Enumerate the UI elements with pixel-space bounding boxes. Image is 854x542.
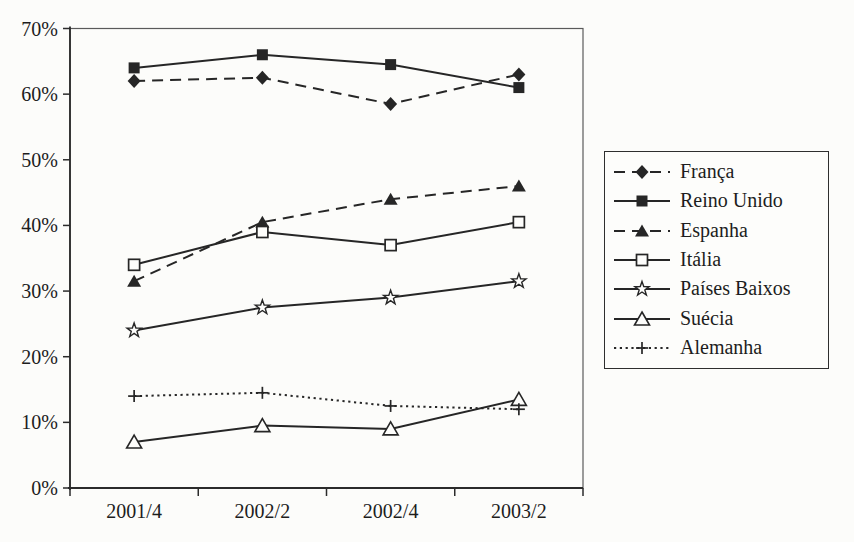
x-tick-label: 2001/4 (106, 500, 162, 522)
legend-item-espanha: Espanha (613, 218, 826, 244)
legend-item-franca: França (613, 159, 826, 185)
legend-item-italia: Itália (613, 247, 826, 273)
data-point-marker (257, 226, 268, 237)
data-point-marker (385, 240, 396, 251)
data-point-marker (513, 82, 524, 93)
series-line-alemanha (134, 393, 519, 409)
legend-label-italia: Itália (680, 249, 721, 271)
y-tick-label: 60% (21, 83, 58, 105)
data-point-marker (513, 217, 524, 228)
y-tick-label: 50% (21, 149, 58, 171)
series-line-paises-baixos (134, 281, 519, 330)
legend-label-suecia: Suécia (680, 308, 733, 330)
data-point-marker (512, 67, 525, 81)
series-line-reino-unido (134, 55, 519, 88)
data-point-marker (383, 290, 397, 304)
legend-marker-plus (636, 342, 648, 354)
legend-sample-alemanha (613, 337, 671, 359)
x-tick-label: 2002/4 (363, 500, 419, 522)
legend-marker-star-open (635, 282, 649, 296)
legend-item-suecia: Suécia (613, 306, 826, 332)
data-point-marker (512, 180, 526, 192)
y-tick-label: 0% (31, 477, 58, 499)
data-point-marker (512, 274, 526, 288)
legend-marker-square-open (637, 254, 648, 265)
legend-label-paises-baixos: Países Baixos (680, 278, 791, 300)
y-tick-label: 20% (21, 346, 58, 368)
data-point-marker (256, 71, 269, 85)
series-line-suecia (134, 399, 519, 442)
y-tick-label: 70% (21, 18, 58, 40)
legend-marker-square-filled (637, 196, 648, 207)
data-point-marker (128, 74, 141, 88)
legend-sample-italia (613, 249, 671, 271)
data-point-marker (255, 300, 269, 314)
legend-sample-paises-baixos (613, 278, 671, 300)
legend: França Reino Unido Espanha Itália Países… (604, 151, 829, 369)
legend-sample-suecia (613, 308, 671, 330)
y-tick-label: 30% (21, 280, 58, 302)
line-chart-figure: 0%10%20%30%40%50%60%70%2001/42002/22002/… (0, 0, 854, 542)
legend-label-reino-unido: Reino Unido (680, 190, 783, 212)
plot-border (70, 29, 583, 489)
legend-sample-franca (613, 161, 671, 183)
x-tick-label: 2003/2 (491, 500, 547, 522)
y-tick-label: 40% (21, 214, 58, 236)
legend-item-paises-baixos: Países Baixos (613, 276, 826, 302)
legend-marker-diamond-filled (636, 165, 649, 179)
legend-item-alemanha: Alemanha (613, 335, 826, 361)
x-tick-label: 2002/2 (235, 500, 291, 522)
data-point-marker (257, 49, 268, 60)
data-point-marker (129, 259, 140, 270)
legend-sample-reino-unido (613, 190, 671, 212)
legend-item-reino-unido: Reino Unido (613, 188, 826, 214)
legend-label-espanha: Espanha (680, 220, 748, 242)
legend-label-franca: França (680, 161, 734, 183)
data-point-marker (384, 97, 397, 111)
data-point-marker (129, 62, 140, 73)
legend-label-alemanha: Alemanha (680, 337, 762, 359)
series-line-franca (134, 74, 519, 104)
data-point-marker (127, 323, 141, 337)
legend-sample-espanha (613, 220, 671, 242)
data-point-marker (385, 59, 396, 70)
y-tick-label: 10% (21, 411, 58, 433)
series-line-espanha (134, 186, 519, 281)
series-line-italia (134, 222, 519, 265)
data-point-marker (127, 275, 141, 287)
